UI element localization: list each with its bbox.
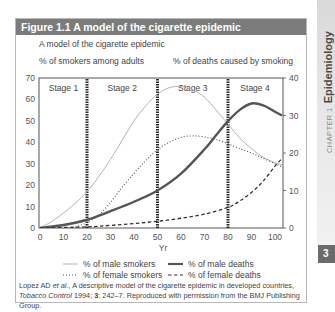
left-tick-label: 10	[26, 202, 36, 212]
x-tick-label: 10	[59, 232, 69, 242]
right-tick-label: 20	[289, 148, 299, 158]
x-axis-ticks: 0102030405060708090100	[38, 232, 283, 242]
left-tick-label: 40	[26, 137, 36, 147]
stage-label: Stage 1	[49, 83, 79, 93]
stage-label: Stage 2	[108, 83, 138, 93]
stage-label: Stage 3	[178, 83, 208, 93]
x-tick-label: 70	[200, 232, 210, 242]
left-tick-label: 50	[26, 116, 36, 126]
left-axis-ticks: 010203040506070	[26, 73, 36, 233]
series-male-smokers	[40, 86, 282, 228]
caption-journal: Tobacco Control	[19, 291, 72, 300]
legend-label: % of male deaths	[188, 259, 254, 269]
right-tick-label: 40	[289, 73, 299, 83]
legend-line-solid-thick-icon	[168, 262, 183, 266]
right-tick-label: 0	[289, 223, 294, 233]
left-tick-label: 60	[26, 94, 36, 104]
x-tick-label: 80	[223, 232, 233, 242]
figure-caption: Lopez AD et al., A descriptive model of …	[19, 281, 303, 311]
right-tick-label: 30	[289, 111, 299, 121]
legend-line-dotted-icon	[63, 273, 78, 277]
x-tick-label: 100	[268, 232, 282, 242]
legend-female-smokers: % of female smokers	[63, 269, 162, 280]
legend-label: % of male smokers	[83, 259, 155, 269]
series-male-deaths	[40, 103, 282, 228]
right-axis-ticks: 010203040	[283, 73, 299, 233]
x-tick-label: 50	[153, 232, 163, 242]
x-axis-label: Yr	[159, 243, 168, 253]
left-tick-label: 20	[26, 180, 36, 190]
left-tick-label: 30	[26, 159, 36, 169]
stage-labels: Stage 1Stage 2Stage 3Stage 4	[49, 83, 270, 93]
legend-male-deaths: % of male deaths	[168, 258, 254, 269]
legend-line-dashed-icon	[168, 273, 183, 277]
series-lines	[40, 86, 282, 228]
caption-text: 1994;	[72, 291, 94, 300]
x-tick-label: 0	[38, 232, 43, 242]
left-tick-label: 70	[26, 73, 36, 83]
legend-line-solid-thin-icon	[63, 262, 78, 266]
x-tick-label: 40	[129, 232, 139, 242]
legend-label: % of female deaths	[188, 270, 261, 280]
legend-label: % of female smokers	[83, 270, 162, 280]
series-female-deaths	[40, 159, 282, 228]
caption-italic: et al.	[53, 281, 69, 290]
left-tick-label: 0	[30, 223, 35, 233]
x-tick-label: 30	[106, 232, 116, 242]
caption-text: , A descriptive model of the cigarette e…	[69, 281, 295, 290]
stage-label: Stage 4	[240, 83, 270, 93]
legend-male-smokers: % of male smokers	[63, 258, 155, 269]
plot-area	[39, 78, 283, 228]
legend-female-deaths: % of female deaths	[168, 269, 261, 280]
x-tick-label: 20	[82, 232, 92, 242]
x-tick-label: 90	[247, 232, 257, 242]
right-tick-label: 10	[289, 186, 299, 196]
caption-text: Lopez AD	[19, 281, 53, 290]
x-tick-label: 60	[176, 232, 186, 242]
